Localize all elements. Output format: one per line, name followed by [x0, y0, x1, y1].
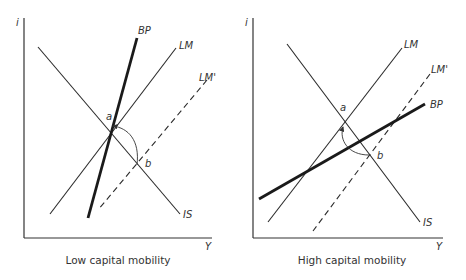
lm-label: LM [404, 39, 419, 50]
adjustment-arrow [342, 127, 369, 155]
panel-low-mobility: i Y BP LM LM' IS a b Low capital mobilit… [16, 17, 216, 266]
y-axis-label: i [16, 17, 19, 28]
bp-curve [88, 38, 137, 218]
is-label: IS [423, 217, 433, 228]
is-curve [287, 44, 420, 222]
point-b-label: b [377, 150, 383, 161]
panel-high-mobility: i Y BP LM LM' IS a b High capital mobili… [245, 17, 448, 266]
lm-prime-label: LM' [431, 64, 448, 75]
point-a-label: a [106, 111, 112, 122]
is-curve [38, 47, 180, 214]
caption: High capital mobility [298, 254, 406, 266]
y-axis-label: i [245, 17, 248, 28]
x-axis-label: Y [205, 241, 212, 252]
lm-prime-label: LM' [199, 72, 216, 83]
lm-label: LM [179, 40, 194, 51]
point-b-label: b [145, 158, 151, 169]
bp-label: BP [138, 25, 152, 36]
bp-label: BP [430, 99, 444, 110]
x-axis-label: Y [436, 241, 443, 252]
is-label: IS [183, 209, 193, 220]
lm-curve [268, 48, 402, 222]
point-a-label: a [340, 102, 346, 113]
diagram-canvas: i Y BP LM LM' IS a b Low capital mobilit… [0, 0, 466, 280]
lm-prime-curve [98, 80, 207, 210]
lm-prime-curve [313, 74, 430, 231]
caption: Low capital mobility [65, 254, 170, 266]
